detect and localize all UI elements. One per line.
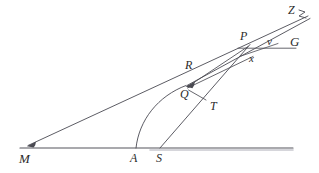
point-label-v: v [267, 36, 272, 47]
point-label-a: A [130, 152, 137, 164]
diagram-canvas: M A S T Q R x P v G Z [0, 0, 319, 173]
point-label-q: Q [180, 88, 189, 100]
ray-q-to-p [188, 47, 249, 87]
point-label-z: Z [288, 4, 295, 16]
zigzag-mark-at-z [299, 10, 306, 18]
point-label-p: P [240, 30, 247, 42]
ray-q-to-x [188, 57, 254, 89]
point-label-x: x [249, 53, 254, 64]
point-label-s: S [156, 152, 162, 164]
ray-m-to-z [28, 16, 308, 146]
point-label-m: M [19, 152, 30, 165]
ray-s-to-p [160, 45, 250, 149]
point-label-r: R [185, 59, 192, 71]
short-ray-x-to-v [241, 44, 278, 57]
point-label-t: T [210, 100, 217, 112]
arrowhead-at-m-icon [27, 142, 36, 148]
point-label-g: G [290, 35, 299, 48]
arc-a-to-q [136, 86, 186, 149]
geometry-figure [0, 0, 319, 173]
